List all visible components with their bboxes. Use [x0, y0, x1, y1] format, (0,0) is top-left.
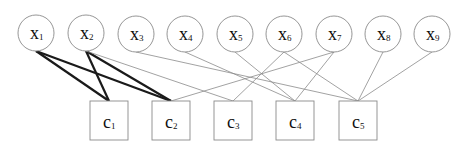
tanner-graph-diagram: x1x2x3x4x5x6x7x8x9 c1c2c3c4c5: [0, 0, 464, 149]
edges-layer: [36, 51, 432, 101]
graph-canvas: x1x2x3x4x5x6x7x8x9 c1c2c3c4c5: [0, 0, 464, 149]
edge-x7-c4: [295, 52, 334, 101]
edge-x6-c5: [284, 52, 358, 101]
variable-node-x4: x4: [167, 16, 203, 52]
check-node-c2: c2: [152, 101, 190, 140]
edge-x3-c5: [136, 52, 358, 101]
variable-node-x2: x2: [68, 15, 104, 51]
variable-node-x8: x8: [365, 16, 401, 52]
edge-x1-c2: [36, 51, 171, 101]
edge-x4-c4: [185, 52, 295, 101]
check-nodes-layer: c1c2c3c4c5: [90, 101, 377, 140]
variable-node-x6: x6: [266, 16, 302, 52]
check-node-c3: c3: [214, 101, 252, 140]
variable-nodes-layer: x1x2x3x4x5x6x7x8x9: [18, 15, 450, 52]
variable-node-x5: x5: [217, 16, 253, 52]
variable-node-x1: x1: [18, 15, 54, 51]
edge-x7-c2: [171, 52, 334, 101]
variable-node-x7: x7: [316, 16, 352, 52]
variable-node-x9: x9: [414, 16, 450, 52]
check-node-c5: c5: [339, 101, 377, 140]
edge-x5-c4: [235, 52, 295, 101]
variable-node-x3: x3: [118, 16, 154, 52]
edge-x9-c5: [358, 52, 432, 101]
check-node-c1: c1: [90, 101, 128, 140]
edge-x8-c5: [358, 52, 383, 101]
check-node-c4: c4: [276, 101, 314, 140]
